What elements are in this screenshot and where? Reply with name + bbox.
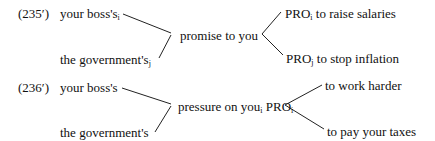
right-item-work-harder: to work harder: [325, 78, 402, 93]
center-phrase-promise: promise to you: [180, 28, 258, 43]
branch-lines: [0, 0, 435, 141]
left-item-bosss-2: your boss's: [60, 80, 118, 95]
left-item-governments-2: the government's: [60, 125, 149, 140]
center-phrase-pressure: pressure on youi PROi: [178, 99, 293, 114]
right-item-raise-salaries: PROi to raise salaries: [285, 6, 396, 21]
right-item-stop-inflation: PROj to stop inflation: [286, 51, 399, 66]
right-item-pay-taxes: to pay your taxes: [327, 124, 416, 139]
example-number-235: (235′): [18, 6, 49, 21]
left-item-bosss: your boss'si: [60, 6, 120, 21]
example-number-236: (236′): [18, 80, 49, 95]
left-item-governments: the government'sj: [60, 52, 151, 67]
